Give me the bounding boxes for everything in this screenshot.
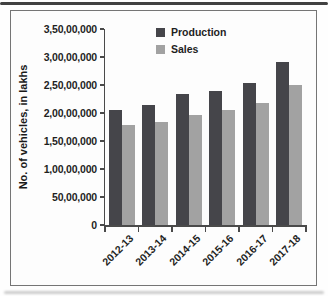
scan-artifact-bottom-smudge — [4, 291, 324, 294]
chart-legend: Production Sales — [156, 24, 226, 58]
x-axis-label: 2013-14 — [133, 232, 169, 268]
bar-production — [142, 105, 155, 225]
bar-sales — [289, 85, 302, 225]
x-tick-mark — [205, 227, 207, 232]
bar-sales — [155, 122, 168, 225]
legend-label-sales: Sales — [171, 44, 198, 55]
x-tick-mark — [238, 227, 240, 232]
chart-frame: No. of vehicles, in lakhs Production Sal… — [10, 10, 317, 286]
x-tick-mark — [171, 227, 173, 232]
x-tick-mark — [305, 227, 307, 232]
x-axis-label: 2014-15 — [166, 232, 202, 268]
y-axis-line — [104, 29, 106, 227]
y-tick-label: 2,00,00,000 — [11, 107, 97, 120]
x-tick-mark — [138, 227, 140, 232]
bar-sales — [189, 115, 202, 225]
x-axis-label: 2015-16 — [200, 232, 236, 268]
y-tick-mark — [100, 28, 104, 30]
x-axis-label: 2012-13 — [99, 232, 135, 268]
y-tick-label: 2,50,00,000 — [11, 79, 97, 92]
bar-sales — [256, 103, 269, 225]
legend-item-production: Production — [156, 24, 226, 41]
bar-production — [243, 83, 256, 225]
x-axis-label: 2016-17 — [233, 232, 269, 268]
legend-item-sales: Sales — [156, 41, 226, 58]
bar-production — [109, 110, 122, 225]
y-tick-label: 1,00,00,000 — [11, 163, 97, 176]
bar-production — [209, 91, 222, 225]
y-tick-label: 50,00,000 — [11, 191, 97, 204]
bar-sales — [222, 110, 235, 225]
y-tick-label: 3,50,00,000 — [11, 23, 97, 36]
scan-artifact-top-rule — [0, 2, 328, 5]
y-tick-mark — [100, 168, 104, 170]
y-tick-mark — [100, 84, 104, 86]
x-tick-mark — [104, 227, 106, 232]
y-tick-label: 3,00,00,000 — [11, 51, 97, 64]
bar-sales — [122, 125, 135, 225]
y-tick-mark — [100, 56, 104, 58]
x-tick-mark — [272, 227, 274, 232]
y-tick-mark — [100, 196, 104, 198]
y-tick-label: 1,50,00,000 — [11, 135, 97, 148]
y-tick-label: 0 — [11, 219, 97, 232]
y-tick-mark — [100, 224, 104, 226]
bar-production — [176, 94, 189, 225]
legend-label-production: Production — [171, 27, 226, 38]
y-tick-mark — [100, 112, 104, 114]
production-legend-swatch — [156, 28, 165, 37]
bar-production — [276, 62, 289, 225]
x-axis-label: 2017-18 — [267, 232, 303, 268]
y-tick-mark — [100, 140, 104, 142]
sales-legend-swatch — [156, 45, 165, 54]
scanned-page: No. of vehicles, in lakhs Production Sal… — [0, 0, 328, 296]
